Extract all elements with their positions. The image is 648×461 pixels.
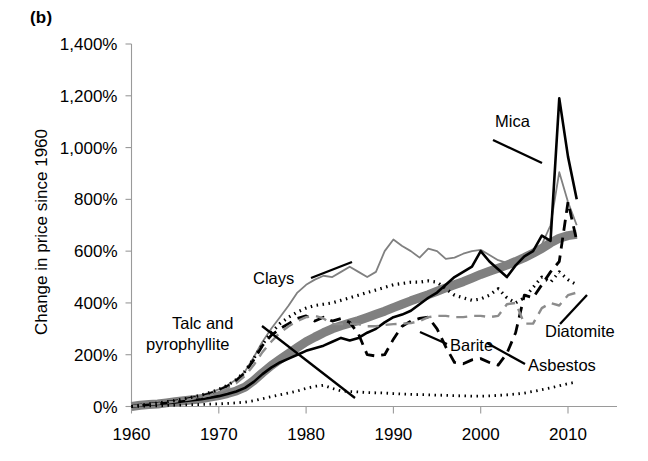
x-tick-label: 1960 [113, 425, 151, 444]
chart-plot: 0%200%400%600%800%1,000%1,200%1,400% 196… [0, 0, 648, 461]
annotation-barite: Barite [420, 332, 493, 354]
y-tick-label: 800% [74, 190, 117, 209]
x-tick-label: 2000 [462, 425, 500, 444]
annotation-diatomite-leader [560, 295, 587, 324]
annotation-mica-leader [493, 140, 542, 163]
annotation-barite-label: Barite [450, 336, 493, 354]
annotation-mica: Mica [493, 112, 542, 163]
y-tick-label: 400% [74, 294, 117, 313]
x-tick-label-group: 196019701980199020002010 [113, 425, 587, 444]
x-tick-label: 1990 [374, 425, 412, 444]
annotation-talc-label-line1: Talc and [172, 314, 233, 332]
annotation-talc-label-line2: pyrophyllite [146, 335, 229, 353]
x-tick-label: 2010 [549, 425, 587, 444]
y-tick-label: 600% [74, 242, 117, 261]
series-line-mica [132, 98, 577, 406]
y-tick-label: 1,400% [60, 35, 118, 54]
annotation-clays-label: Clays [253, 269, 294, 287]
x-tick-label: 1980 [287, 425, 325, 444]
y-tick-label-group: 0%200%400%600%800%1,000%1,200%1,400% [60, 35, 118, 417]
annotation-mica-label: Mica [495, 112, 531, 130]
annotation-diatomite-label: Diatomite [545, 322, 615, 340]
series-line-clays [132, 172, 577, 406]
annotation-asbestos-label: Asbestos [528, 356, 596, 374]
y-tick-label: 200% [74, 346, 117, 365]
y-tick-label: 1,200% [60, 87, 118, 106]
annotation-diatomite: Diatomite [545, 295, 615, 340]
x-tick-label: 1970 [200, 425, 238, 444]
chart-page: (b) Change in price since 1960 0%200%400… [0, 0, 648, 461]
series-group [132, 98, 577, 406]
y-tick-label: 1,000% [60, 139, 118, 158]
y-tick-label: 0% [93, 398, 118, 417]
